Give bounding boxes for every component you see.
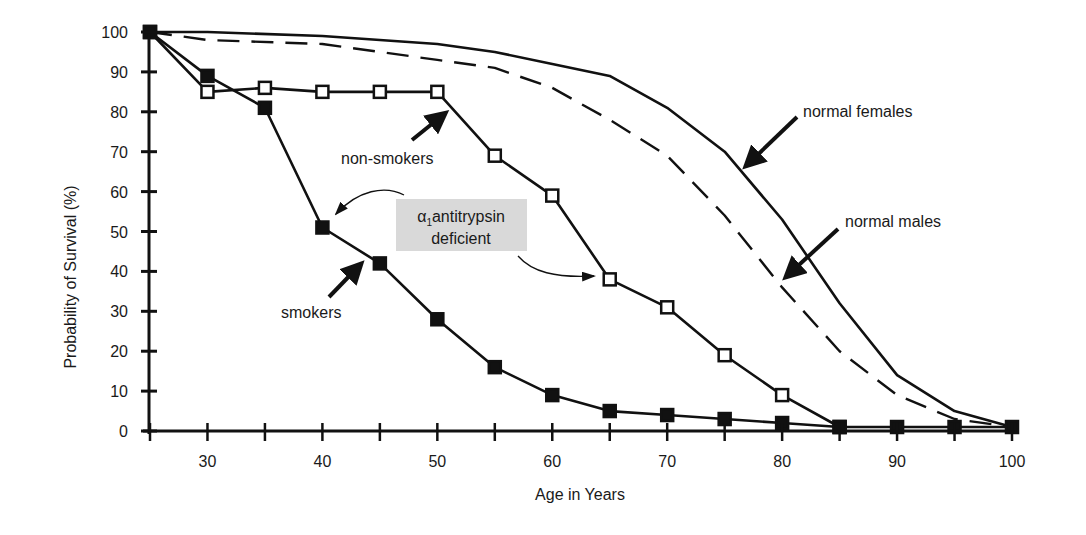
filled-square-marker — [316, 222, 328, 234]
arrow-icon-normal-females — [748, 117, 797, 164]
antitrypsin-text: antitrypsin — [432, 208, 505, 225]
y-tick-label: 30 — [110, 303, 128, 320]
open-square-marker — [431, 86, 443, 98]
alpha-symbol: α — [417, 208, 426, 225]
y-tick-label: 60 — [110, 184, 128, 201]
filled-square-marker — [661, 409, 673, 421]
annotation-smokers: smokers — [281, 304, 341, 321]
x-tick-label: 90 — [888, 453, 906, 470]
annotation-normal-males: normal males — [845, 213, 941, 230]
arrow-icon-non-smokers — [412, 115, 443, 140]
filled-square-marker — [604, 405, 616, 417]
x-tick-label: 50 — [428, 453, 446, 470]
open-square-marker — [489, 150, 501, 162]
y-tick-label: 50 — [110, 224, 128, 241]
open-square-marker — [316, 86, 328, 98]
open-square-marker — [201, 86, 213, 98]
y-tick-label: 0 — [119, 423, 128, 440]
open-square-marker — [546, 190, 558, 202]
y-axis-title: Probability of Survival (%) — [62, 185, 79, 368]
open-square-marker — [604, 273, 616, 285]
x-tick-label: 30 — [199, 453, 217, 470]
curved-arrow-icon-to-non-smokers — [518, 256, 594, 276]
arrow-icon-smokers — [329, 266, 359, 297]
y-tick-label: 40 — [110, 263, 128, 280]
x-tick-label: 70 — [658, 453, 676, 470]
x-tick-label: 80 — [773, 453, 791, 470]
filled-square-marker — [431, 313, 443, 325]
filled-square-marker — [259, 102, 271, 114]
y-tick-label: 80 — [110, 104, 128, 121]
y-tick-label: 10 — [110, 383, 128, 400]
filled-square-marker — [201, 70, 213, 82]
filled-square-marker — [546, 389, 558, 401]
y-tick-label: 70 — [110, 144, 128, 161]
open-square-marker — [719, 349, 731, 361]
x-tick-label: 60 — [543, 453, 561, 470]
y-tick-label: 90 — [110, 64, 128, 81]
open-square-marker — [259, 82, 271, 94]
curved-arrow-icon-to-smokers — [336, 190, 404, 214]
y-tick-label: 100 — [101, 24, 128, 41]
x-tick-label: 100 — [999, 453, 1026, 470]
annotation-line2: deficient — [431, 230, 491, 247]
annotation-non-smokers: non-smokers — [341, 150, 433, 167]
survival-chart: 0102030405060708090100 30405060708090100… — [0, 0, 1086, 535]
arrow-icon-normal-males — [788, 229, 838, 275]
y-tick-label: 20 — [110, 343, 128, 360]
open-square-marker — [776, 389, 788, 401]
open-square-marker — [661, 301, 673, 313]
x-axis-title: Age in Years — [535, 486, 625, 503]
open-square-marker — [374, 86, 386, 98]
filled-square-marker — [489, 361, 501, 373]
filled-square-marker — [374, 257, 386, 269]
x-tick-label: 40 — [314, 453, 332, 470]
annotation-normal-females: normal females — [803, 103, 912, 120]
